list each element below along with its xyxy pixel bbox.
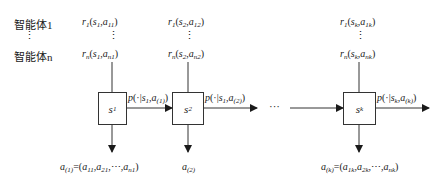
reward-agent1-step2: r1(s2,a12) bbox=[168, 16, 204, 29]
reward-agentn-step2: rn(s2,an2) bbox=[168, 48, 204, 61]
joint-action-step1: a(1)=(a11,a21,⋯,an1) bbox=[60, 161, 138, 174]
transition-label-1: p(·|s1,a(1)) bbox=[128, 92, 168, 105]
transition-label-k: p(·|sk,a(k)) bbox=[377, 92, 416, 105]
reward-agent1-step1: r1(s1,a11) bbox=[82, 16, 117, 29]
state-box-s1: s1 bbox=[98, 92, 127, 125]
joint-action-step2: a(2) bbox=[182, 161, 195, 174]
transition-label-2: p(·|s1,a(2)) bbox=[205, 92, 245, 105]
agent-vdots: ⋮ bbox=[24, 33, 32, 37]
reward-vdots-step2: ⋮ bbox=[184, 33, 192, 37]
steps-ellipsis: ··· bbox=[269, 100, 280, 112]
reward-agentn-step1: rn(s1,an1) bbox=[82, 48, 118, 61]
reward-vdots-stepk: ⋮ bbox=[355, 33, 363, 37]
state-box-sk: sk bbox=[343, 92, 376, 125]
reward-agentn-stepk: rn(sk,ank) bbox=[340, 48, 375, 61]
state-box-s2: s2 bbox=[172, 92, 204, 125]
reward-vdots-step1: ⋮ bbox=[108, 33, 116, 37]
agent-n-label: 智能体n bbox=[14, 48, 53, 64]
joint-action-stepk: a(k)=(a1k,a2k,⋯,ank) bbox=[321, 161, 398, 174]
reward-agent1-stepk: r1(sk,a1k) bbox=[340, 16, 375, 29]
